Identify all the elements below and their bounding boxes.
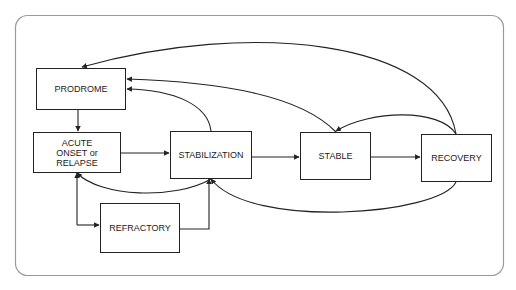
node-acute-onset-or-relapse: ACUTE ONSET or RELAPSE: [33, 132, 121, 173]
node-label: RECOVERY: [431, 153, 481, 163]
edge-stable-prodrome: [127, 79, 336, 132]
edge-recovery-stabilization: [211, 179, 456, 212]
node-stable: STABLE: [300, 132, 371, 180]
node-recovery: RECOVERY: [421, 134, 492, 182]
edge-stabilization-prodrome: [127, 89, 211, 131]
node-stabilization: STABILIZATION: [170, 131, 252, 179]
node-refractory: REFRACTORY: [100, 203, 180, 253]
node-label: STABLE: [319, 151, 353, 161]
node-label: PRODROME: [54, 84, 107, 94]
node-label-line: ONSET or: [56, 148, 97, 158]
node-label: REFRACTORY: [109, 223, 171, 233]
node-prodrome: PRODROME: [36, 68, 126, 110]
edge-recovery-prodrome: [82, 43, 456, 134]
node-label-line: RELAPSE: [56, 158, 98, 168]
node-label-line: ACUTE: [62, 138, 93, 148]
node-label: STABILIZATION: [178, 150, 243, 160]
